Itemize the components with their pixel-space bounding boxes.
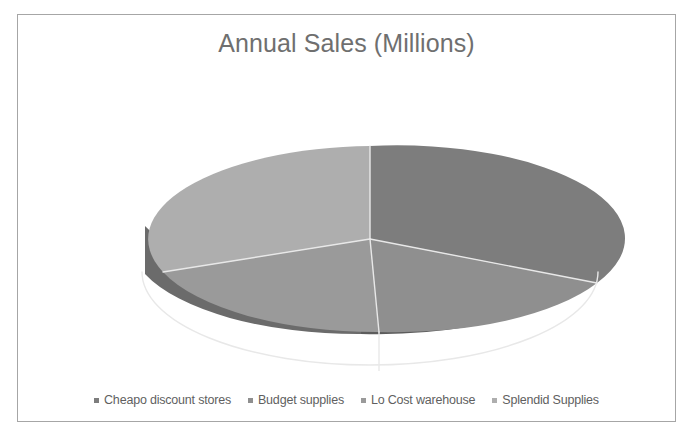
legend-label-splendid-supplies: Splendid Supplies — [502, 393, 599, 407]
legend-label-lo-cost-warehouse: Lo Cost warehouse — [371, 393, 475, 407]
legend-item-lo-cost-warehouse[interactable]: Lo Cost warehouse — [361, 393, 475, 407]
chart-frame[interactable]: Annual Sales (Millions) — [17, 14, 676, 422]
legend-item-splendid-supplies[interactable]: Splendid Supplies — [492, 393, 599, 407]
legend-swatch-budget-supplies — [248, 398, 253, 403]
legend-item-cheapo-discount-stores[interactable]: Cheapo discount stores — [94, 393, 231, 407]
legend-label-cheapo-discount-stores: Cheapo discount stores — [104, 393, 231, 407]
chart-title: Annual Sales (Millions) — [18, 29, 675, 58]
pie-chart-svg — [18, 61, 676, 371]
legend-swatch-cheapo-discount-stores — [94, 398, 99, 403]
pie-top-face — [148, 145, 625, 332]
chart-legend: Cheapo discount stores Budget supplies L… — [18, 393, 675, 407]
legend-item-budget-supplies[interactable]: Budget supplies — [248, 393, 344, 407]
pie-chart-plot-area[interactable] — [18, 61, 676, 371]
legend-swatch-splendid-supplies — [492, 398, 497, 403]
legend-swatch-lo-cost-warehouse — [361, 398, 366, 403]
legend-label-budget-supplies: Budget supplies — [258, 393, 344, 407]
